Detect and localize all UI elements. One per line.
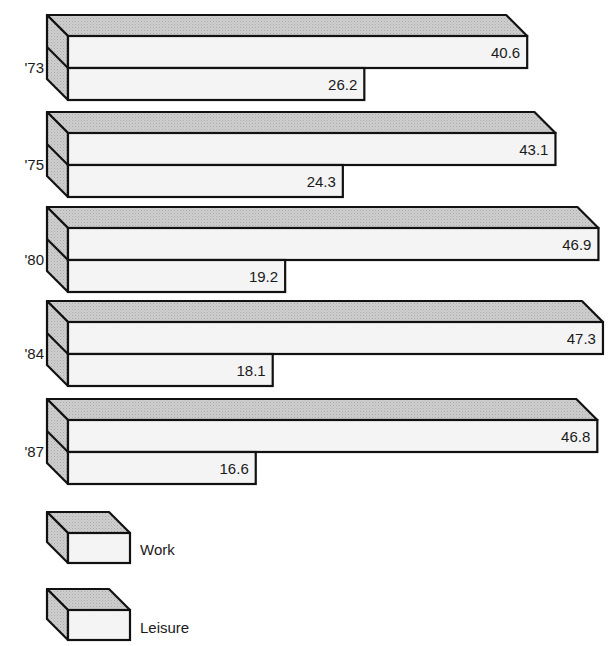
bar-top-face (47, 207, 598, 228)
bar-leisure (68, 68, 364, 100)
bar-work (68, 322, 603, 354)
bar-group: 40.626.2'73 (24, 15, 527, 100)
bar-group: 43.124.3'75 (24, 112, 555, 197)
value-label-leisure: 18.1 (237, 362, 266, 379)
year-label: '75 (24, 156, 44, 173)
bar-work (68, 420, 597, 452)
bar-top-face (47, 399, 597, 420)
legend-label-work: Work (140, 541, 175, 558)
bar-work (68, 36, 527, 68)
legend-item-leisure (47, 589, 130, 640)
value-label-work: 46.8 (561, 428, 590, 445)
bar-top-face (47, 301, 603, 322)
year-label: '84 (24, 345, 44, 362)
year-label: '87 (24, 443, 44, 460)
value-label-leisure: 26.2 (328, 76, 357, 93)
bar-top-face (47, 15, 527, 36)
value-label-work: 47.3 (567, 330, 596, 347)
bar-group: 47.318.1'84 (24, 301, 603, 386)
legend-label-leisure: Leisure (140, 619, 189, 636)
work-leisure-bar-chart: 40.626.2'7343.124.3'7546.919.2'8047.318.… (0, 0, 615, 646)
bar-group: 46.919.2'80 (24, 207, 598, 292)
value-label-leisure: 16.6 (220, 460, 249, 477)
value-label-leisure: 24.3 (307, 173, 336, 190)
bar-group: 46.816.6'87 (24, 399, 597, 484)
bar-groups: 40.626.2'7343.124.3'7546.919.2'8047.318.… (24, 15, 603, 484)
value-label-leisure: 19.2 (249, 268, 278, 285)
bar-work (68, 228, 598, 260)
year-label: '73 (24, 59, 44, 76)
legend-swatch-front (68, 610, 130, 640)
bar-top-face (47, 112, 555, 133)
bar-work (68, 133, 555, 165)
legend: Work Leisure (47, 512, 189, 640)
value-label-work: 43.1 (519, 141, 548, 158)
legend-item-work (47, 512, 130, 563)
value-label-work: 46.9 (562, 236, 591, 253)
year-label: '80 (24, 251, 44, 268)
bar-leisure (68, 165, 343, 197)
legend-swatch-front (68, 533, 130, 563)
value-label-work: 40.6 (491, 44, 520, 61)
